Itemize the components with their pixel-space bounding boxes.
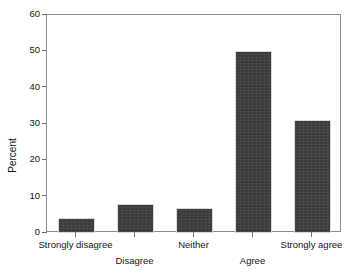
x-axis-tick [75,232,76,237]
x-axis-tick [134,232,135,237]
plot-area [46,14,341,232]
y-axis-tick-label: 20 [0,154,40,164]
bar [117,204,155,233]
x-axis-tick-label: Strongly disagree [16,240,136,250]
y-axis-tick-label: 60 [0,9,40,19]
bar [176,208,214,233]
y-axis-tick-label: 10 [0,191,40,201]
bar-chart-figure: Percent 0102030405060 Strongly disagreeD… [0,0,353,275]
x-axis-tick [311,232,312,237]
x-axis-tick [193,232,194,237]
x-axis-tick-label: Agree [193,256,313,266]
y-axis-tick-label: 50 [0,45,40,55]
x-axis-tick-label: Strongly agree [252,240,353,250]
bar [58,218,96,233]
bar [294,120,332,233]
y-axis-tick-label: 30 [0,118,40,128]
x-axis-tick-label: Disagree [75,256,195,266]
x-axis-tick-label: Neither [134,240,254,250]
y-axis-tick-label: 0 [0,227,40,237]
x-axis-tick [252,232,253,237]
y-axis-tick-label: 40 [0,82,40,92]
bar [235,51,273,233]
